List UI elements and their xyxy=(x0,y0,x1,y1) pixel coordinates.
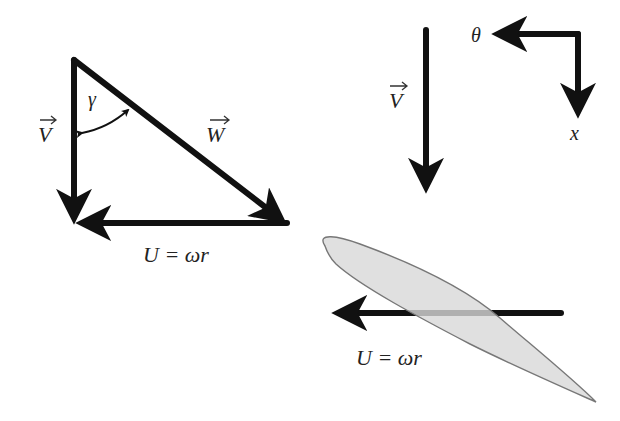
w-label: W xyxy=(206,116,229,147)
theta-label: θ xyxy=(471,24,481,46)
velocity-triangle: V γ W U = ωr xyxy=(38,60,287,267)
gamma-angle-arc xyxy=(82,110,128,133)
velocity-diagram: V γ W U = ωr V θ x U = ωr xyxy=(0,0,620,421)
u-omega-r-label: U = ωr xyxy=(143,242,209,267)
svg-text:V: V xyxy=(389,88,405,113)
w-vector-arrow xyxy=(74,60,278,217)
svg-text:W: W xyxy=(206,122,226,147)
gamma-label: γ xyxy=(88,88,97,111)
airfoil-shape xyxy=(323,237,596,402)
v-label: V xyxy=(38,116,56,147)
svg-text:V: V xyxy=(38,122,54,147)
x-label: x xyxy=(569,122,579,144)
airfoil-u-omega-r-label: U = ωr xyxy=(356,345,422,370)
airfoil-view: U = ωr xyxy=(323,237,596,402)
axis-view: V θ x xyxy=(389,24,579,183)
v-axial-label: V xyxy=(389,82,407,113)
